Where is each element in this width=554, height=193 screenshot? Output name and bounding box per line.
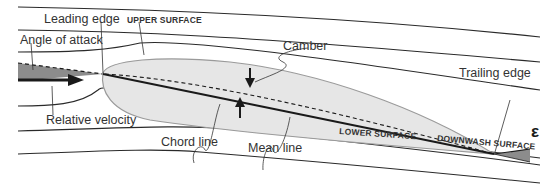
airfoil-diagram: Leading edge UPPER SURFACE Angle of atta… xyxy=(0,0,554,193)
angle-of-attack-label: Angle of attack xyxy=(20,33,103,47)
upper-surface-label: UPPER SURFACE xyxy=(127,15,202,25)
trailing-edge-label: Trailing edge xyxy=(459,66,531,80)
epsilon-symbol: ε xyxy=(531,122,539,141)
mean-line-label: Mean line xyxy=(248,141,302,155)
relative-velocity-label: Relative velocity xyxy=(46,113,137,127)
chord-line-label: Chord line xyxy=(161,135,218,149)
airfoil-figure: Leading edge UPPER SURFACE Angle of atta… xyxy=(0,0,554,193)
leading-edge-label: Leading edge xyxy=(44,12,120,26)
camber-label: Camber xyxy=(283,39,327,53)
